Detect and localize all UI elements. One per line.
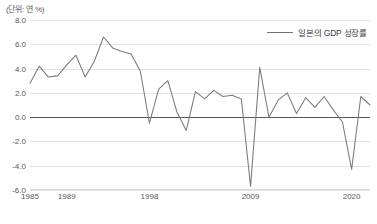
gridline	[30, 190, 370, 191]
y-tick-label: 6.0	[15, 40, 26, 49]
x-tick-label: 1998	[141, 192, 159, 201]
unit-label: (단위: 연 %)	[6, 3, 44, 14]
x-tick-label: 2009	[242, 192, 260, 201]
series-line-japan-gdp-growth	[30, 20, 370, 190]
x-tick-label: 1989	[58, 192, 76, 201]
y-tick-label: 4.0	[15, 64, 26, 73]
series-path	[30, 37, 370, 186]
plot-area: 8.06.04.02.00.0-2.0-4.0-6.0 198519891998…	[30, 20, 370, 190]
x-tick-label: 2020	[343, 192, 361, 201]
y-tick-label: -4.0	[12, 161, 26, 170]
y-tick-label: 2.0	[15, 88, 26, 97]
y-tick-label: 8.0	[15, 16, 26, 25]
chart-container: (단위: 연 %) 일본의 GDP 성장률 8.06.04.02.00.0-2.…	[0, 0, 377, 224]
y-tick-label: -2.0	[12, 137, 26, 146]
y-tick-label: 0.0	[15, 113, 26, 122]
x-tick-label: 1985	[21, 192, 39, 201]
